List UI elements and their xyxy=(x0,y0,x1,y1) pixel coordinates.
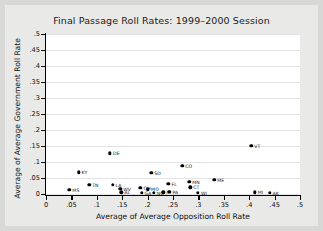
data-point-label: CT xyxy=(193,185,199,190)
x-axis-tick-label: .3 xyxy=(195,201,201,209)
gridline xyxy=(46,114,300,115)
x-axis-tick-label: 0 xyxy=(44,201,48,209)
y-axis-tick-label: .1 xyxy=(34,158,40,166)
x-axis-tick xyxy=(122,196,123,200)
data-point xyxy=(250,144,253,147)
x-axis-tick-label: .25 xyxy=(168,201,179,209)
x-axis-tick-label: .15 xyxy=(117,201,128,209)
x-axis-tick-label: .35 xyxy=(219,201,230,209)
gridline xyxy=(46,178,300,179)
data-point-label: TN xyxy=(92,182,98,187)
x-axis-tick-label: .45 xyxy=(269,201,280,209)
x-axis-tick-label: .4 xyxy=(246,201,252,209)
x-axis-tick xyxy=(71,196,72,200)
data-point xyxy=(108,152,111,155)
x-axis-tick-label: .05 xyxy=(66,201,77,209)
x-axis-tick xyxy=(198,196,199,200)
plot-area: MSKYTNDELAWVALOHGAMOSDNCIAFLPACOMNCTWIME… xyxy=(46,34,300,194)
data-point xyxy=(149,171,152,174)
y-axis-tick-label: 0 xyxy=(36,190,40,198)
x-axis-tick xyxy=(224,196,225,200)
y-axis-tick-label: .45 xyxy=(30,46,41,54)
data-point-label: ME xyxy=(217,177,224,182)
y-axis-tick xyxy=(41,50,45,51)
x-axis-tick-label: .1 xyxy=(94,201,100,209)
y-axis-tick xyxy=(41,114,45,115)
y-axis-tick xyxy=(41,130,45,131)
y-axis-tick-label: .15 xyxy=(30,142,41,150)
data-point-label: VT xyxy=(254,144,260,149)
x-axis-tick xyxy=(275,196,276,200)
y-axis-tick xyxy=(41,162,45,163)
data-point xyxy=(167,182,170,185)
data-point-label: PA xyxy=(172,190,178,195)
y-axis-tick xyxy=(41,82,45,83)
graph-card: Final Passage Roll Rates: 1999–2000 Sess… xyxy=(5,5,318,226)
gridline xyxy=(46,162,300,163)
data-point-label: SD xyxy=(154,170,161,175)
gridline xyxy=(46,34,300,35)
data-point xyxy=(180,164,183,167)
y-axis-tick xyxy=(41,146,45,147)
x-axis-tick-label: .5 xyxy=(297,201,303,209)
data-point xyxy=(189,186,192,189)
gridline xyxy=(46,66,300,67)
data-point xyxy=(139,186,142,189)
gridline xyxy=(46,146,300,147)
y-axis-tick xyxy=(41,98,45,99)
y-axis-tick xyxy=(41,178,45,179)
chart-title: Final Passage Roll Rates: 1999–2000 Sess… xyxy=(5,15,318,26)
data-point xyxy=(87,183,90,186)
y-axis-tick xyxy=(41,34,45,35)
data-point xyxy=(68,188,71,191)
y-axis-tick xyxy=(41,66,45,67)
y-axis-tick-label: .05 xyxy=(30,174,41,182)
gridline xyxy=(46,130,300,131)
data-point xyxy=(77,171,80,174)
x-axis-tick xyxy=(249,196,250,200)
x-axis-tick-label: .2 xyxy=(144,201,150,209)
data-point xyxy=(212,178,215,181)
data-point-label: MS xyxy=(72,187,79,192)
x-axis-tick xyxy=(148,196,149,200)
y-axis-title: Average of Average Government Roll Rate xyxy=(13,39,22,199)
y-axis-tick-label: .35 xyxy=(30,78,41,86)
x-axis-tick xyxy=(300,196,301,200)
y-axis-tick-label: .25 xyxy=(30,110,41,118)
data-point-label: MN xyxy=(192,179,200,184)
y-axis-tick-label: .4 xyxy=(34,62,40,70)
chart-figure: Final Passage Roll Rates: 1999–2000 Sess… xyxy=(0,0,323,231)
y-axis-tick-label: .3 xyxy=(34,94,40,102)
y-axis-tick-label: .5 xyxy=(34,30,40,38)
y-axis-tick xyxy=(41,194,45,195)
data-point-label: CO xyxy=(185,163,192,168)
gridline xyxy=(46,50,300,51)
gridline xyxy=(46,82,300,83)
y-axis-tick-labels: 0.05.1.15.2.25.3.35.4.45.5 xyxy=(5,5,40,226)
y-axis-line xyxy=(45,33,46,195)
gridline xyxy=(46,98,300,99)
data-point-label: DE xyxy=(113,151,120,156)
data-point-label: KY xyxy=(82,170,88,175)
data-point xyxy=(111,183,114,186)
x-axis-tick xyxy=(97,196,98,200)
x-axis-tick xyxy=(173,196,174,200)
data-point-label: FL xyxy=(171,181,176,186)
y-axis-tick-label: .2 xyxy=(34,126,40,134)
data-point xyxy=(188,180,191,183)
x-axis-tick xyxy=(46,196,47,200)
x-axis-title: Average of Average Opposition Roll Rate xyxy=(46,212,300,221)
